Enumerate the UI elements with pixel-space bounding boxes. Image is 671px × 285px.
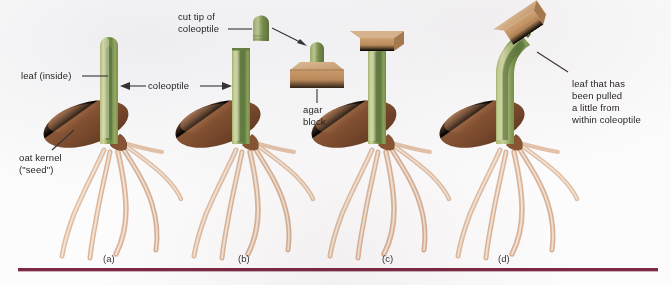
coleoptile-d-bent [496,31,531,144]
label-oat-kernel-line2: ("seed") [19,164,53,176]
panel-d [434,0,577,258]
label-cut-tip-line1: cut tip of [178,11,215,23]
label-leaf-pulled-line1: leaf that has [572,78,625,90]
panel-label-b: (b) [238,253,250,264]
agar-block-c [350,31,404,51]
label-leaf-pulled-line2: been pulled [572,90,622,102]
coleoptile-experiment-figure [0,0,671,285]
label-cut-tip-line2: coleoptile [178,23,219,35]
panel-label-d: (d) [498,253,510,264]
roots-a [62,142,181,258]
label-agar-line2: block [303,116,326,128]
cut-tip-specimen [253,16,269,42]
roots-b [194,142,313,258]
roots-d [458,142,577,258]
panel-label-c: (c) [382,253,393,264]
figure-bottom-rule-shadow [18,271,658,272]
roots-c [330,142,449,258]
oat-kernel-d [434,91,530,157]
oat-kernel-a [38,91,134,157]
label-oat-kernel-line1: oat kernel [19,152,62,164]
label-leaf-pulled-line3: a little from [572,102,620,114]
coleoptile-c [368,50,386,144]
label-coleoptile: coleoptile [148,80,189,92]
label-agar-line1: agar [303,104,322,116]
leaf-pulled-leader-line [537,52,568,72]
agar-block-b [290,42,344,88]
arrow-tip-to-agar [272,28,307,46]
label-leaf-pulled-line4: within coleoptile [572,114,641,126]
label-leaf-inside: leaf (inside) [21,70,71,82]
oat-kernel-b [170,91,266,157]
coleoptile-b-cut [232,48,250,144]
panel-label-a: (a) [103,253,115,264]
coleoptile-a [100,37,118,144]
